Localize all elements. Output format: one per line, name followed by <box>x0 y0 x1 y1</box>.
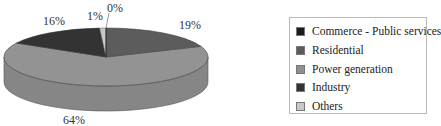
legend-label: Industry <box>312 81 350 93</box>
chart-legend: Commerce - Public services Residential P… <box>289 17 427 114</box>
label-industry-pct: 16% <box>43 15 65 27</box>
legend-item-industry: Industry <box>296 80 350 94</box>
label-power-pct: 64% <box>63 114 85 126</box>
legend-label: Commerce - Public services <box>312 25 441 37</box>
label-commerce-pct: 0% <box>107 2 123 14</box>
leader-line-commerce <box>106 13 109 28</box>
legend-label: Residential <box>312 44 364 56</box>
legend-item-power-generation: Power generation <box>296 62 393 76</box>
legend-label: Others <box>312 100 343 112</box>
legend-item-residential: Residential <box>296 43 364 57</box>
label-others-pct: 1% <box>87 10 103 22</box>
legend-swatch-residential <box>296 46 305 55</box>
legend-swatch-commerce <box>296 27 305 36</box>
legend-item-commerce: Commerce - Public services <box>296 24 441 38</box>
label-residential-pct: 19% <box>179 19 201 31</box>
legend-swatch-power-generation <box>296 65 305 74</box>
legend-swatch-others <box>296 102 305 111</box>
legend-label: Power generation <box>312 63 393 75</box>
legend-swatch-industry <box>296 83 305 92</box>
legend-item-others: Others <box>296 99 343 113</box>
